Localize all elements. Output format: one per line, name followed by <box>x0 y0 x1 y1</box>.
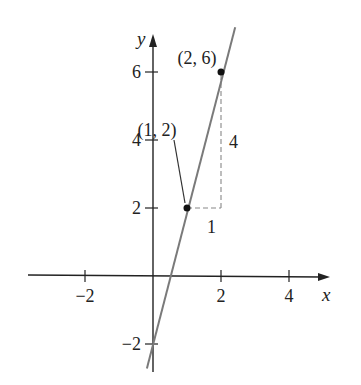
y-tick-label: −2 <box>122 334 141 354</box>
x-tick-label: 2 <box>217 286 226 306</box>
run-label: 1 <box>207 217 216 237</box>
x-axis-label: x <box>321 284 331 305</box>
slope-diagram: x y −224 −2246 1 4 (1, 2)(2, 6) <box>0 0 361 385</box>
line-y-equals-4x-minus-2 <box>147 27 235 368</box>
point-label-1-2: (1, 2) <box>138 120 177 141</box>
point-1-2 <box>184 205 191 212</box>
point-label-2-6: (2, 6) <box>178 48 217 69</box>
x-tick-label: 4 <box>285 286 294 306</box>
y-axis-label: y <box>135 28 146 49</box>
y-tick-label: 2 <box>132 198 141 218</box>
point-label-leader <box>174 140 185 203</box>
x-axis-arrowhead <box>318 273 330 281</box>
point-2-6 <box>218 69 225 76</box>
rise-label: 4 <box>229 132 238 152</box>
x-tick-label: −2 <box>75 286 94 306</box>
x-axis <box>28 275 322 277</box>
y-axis-arrowhead <box>149 34 157 47</box>
y-tick-label: 6 <box>132 62 141 82</box>
